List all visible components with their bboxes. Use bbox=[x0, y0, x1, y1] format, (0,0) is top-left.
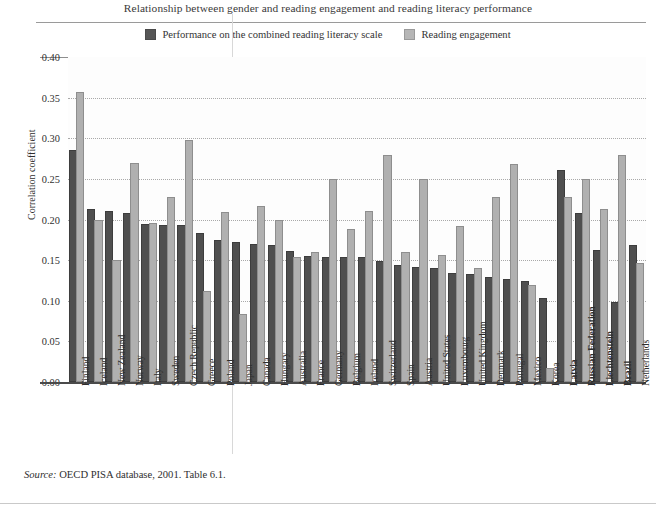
bar-engagement bbox=[365, 211, 373, 382]
y-axis-tick-label: 0.30 bbox=[42, 133, 60, 144]
bar-group bbox=[213, 57, 231, 382]
bar-group bbox=[447, 57, 465, 382]
bar-engagement bbox=[419, 179, 427, 382]
x-axis-label: Switzerland bbox=[388, 340, 398, 386]
bar-group bbox=[86, 57, 104, 382]
bar-group bbox=[321, 57, 339, 382]
bar-group bbox=[411, 57, 429, 382]
y-axis-tick-label: 0.20 bbox=[42, 214, 60, 225]
page-title: Relationship between gender and reading … bbox=[0, 2, 656, 14]
bar-engagement bbox=[149, 223, 157, 382]
bar-group bbox=[520, 57, 538, 382]
x-axis-label: Canada bbox=[262, 357, 272, 386]
x-axis-label: United Kingdom bbox=[478, 321, 488, 386]
bar-group bbox=[104, 57, 122, 382]
bar-group bbox=[249, 57, 267, 382]
x-axis-label: Belgium bbox=[352, 353, 362, 386]
x-axis-label: Czech Republic bbox=[189, 325, 199, 386]
bar-group bbox=[140, 57, 158, 382]
legend-swatch-dark-icon bbox=[145, 29, 156, 40]
x-axis-label: Latvia bbox=[569, 359, 579, 386]
x-axis-label: Russian Federation bbox=[587, 306, 597, 386]
x-axis-label: Netherlands bbox=[641, 340, 651, 386]
x-axis-label: Liechtenstein bbox=[605, 331, 615, 386]
x-axis-label: Japan bbox=[244, 364, 254, 386]
x-axis-label: Korea bbox=[551, 363, 561, 386]
x-axis-label: Austria bbox=[424, 358, 434, 386]
bar-group bbox=[556, 57, 574, 382]
bar-group bbox=[538, 57, 556, 382]
bar-group bbox=[303, 57, 321, 382]
x-axis-label: Brazil bbox=[623, 361, 633, 386]
title-divider bbox=[36, 22, 646, 23]
chart-legend: Performance on the combined reading lite… bbox=[0, 29, 656, 40]
x-axis-label: Denmark bbox=[496, 350, 506, 386]
bar-engagement bbox=[510, 164, 518, 382]
y-axis-title: Correlation coefficient bbox=[26, 129, 37, 220]
bar-series-container bbox=[68, 57, 646, 382]
bar-group bbox=[68, 57, 86, 382]
bar-group bbox=[231, 57, 249, 382]
x-axis-labels: FinlandIcelandNew ZealandNorwayItalySwed… bbox=[68, 386, 646, 466]
y-axis-tick-label: 0.15 bbox=[42, 255, 60, 266]
x-axis-label: Australia bbox=[298, 351, 308, 386]
bar-engagement bbox=[257, 206, 265, 382]
bar-group bbox=[122, 57, 140, 382]
y-axis-tick-label: 0.40 bbox=[42, 52, 60, 63]
x-axis-label: Portugal bbox=[515, 353, 525, 386]
x-axis-label: Poland bbox=[226, 359, 236, 386]
x-axis-label: Italy bbox=[153, 368, 163, 386]
bar-group bbox=[628, 57, 646, 382]
bar-group bbox=[393, 57, 411, 382]
legend-item-performance: Performance on the combined reading lite… bbox=[145, 29, 382, 40]
bar-engagement bbox=[221, 212, 229, 382]
y-axis-tick-label: 0.35 bbox=[42, 92, 60, 103]
bar-group bbox=[375, 57, 393, 382]
x-axis-label: France bbox=[316, 360, 326, 386]
bar-engagement bbox=[564, 197, 572, 382]
bar-group bbox=[267, 57, 285, 382]
source-prefix: Source: bbox=[24, 469, 57, 480]
bar-group bbox=[502, 57, 520, 382]
bar-engagement bbox=[167, 197, 175, 382]
source-text: OECD PISA database, 2001. Table 6.1. bbox=[57, 469, 226, 480]
x-axis-label: Hungary bbox=[280, 352, 290, 386]
x-axis-label: Germany bbox=[334, 350, 344, 386]
x-axis-label: Mexico bbox=[533, 357, 543, 386]
y-axis-tick-label: 0.25 bbox=[42, 173, 60, 184]
bar-group bbox=[339, 57, 357, 382]
chart-page: Relationship between gender and reading … bbox=[0, 0, 656, 510]
legend-label-performance: Performance on the combined reading lite… bbox=[162, 29, 382, 40]
bar-engagement bbox=[618, 155, 626, 382]
x-axis-label: Finland bbox=[81, 357, 91, 386]
bar-group bbox=[285, 57, 303, 382]
source-note: Source: OECD PISA database, 2001. Table … bbox=[24, 469, 226, 480]
bar-group bbox=[357, 57, 375, 382]
y-axis-tick-label: 0.05 bbox=[42, 336, 60, 347]
footer-divider bbox=[0, 503, 656, 504]
x-axis-label: Greece bbox=[207, 359, 217, 386]
bar-engagement bbox=[76, 92, 84, 382]
x-axis-label: New Zealand bbox=[117, 335, 127, 386]
x-axis-label: Norway bbox=[135, 355, 145, 386]
y-axis-tick-label: 0.10 bbox=[42, 295, 60, 306]
bar-group bbox=[429, 57, 447, 382]
x-axis-label: Sweden bbox=[171, 356, 181, 386]
x-axis-label: Luxembourg bbox=[460, 337, 470, 386]
legend-label-engagement: Reading engagement bbox=[421, 29, 510, 40]
x-axis-label: Ireland bbox=[370, 359, 380, 386]
bar-group bbox=[158, 57, 176, 382]
legend-item-engagement: Reading engagement bbox=[404, 29, 510, 40]
legend-swatch-light-icon bbox=[404, 29, 415, 40]
bar-engagement bbox=[130, 163, 138, 382]
x-axis-label: United States bbox=[442, 335, 452, 386]
plot-area: 0.400.350.300.250.200.150.100.050.00 bbox=[68, 57, 646, 382]
bar-engagement bbox=[401, 252, 409, 382]
x-axis-label: Iceland bbox=[99, 358, 109, 386]
x-axis-label: Spain bbox=[406, 364, 416, 386]
